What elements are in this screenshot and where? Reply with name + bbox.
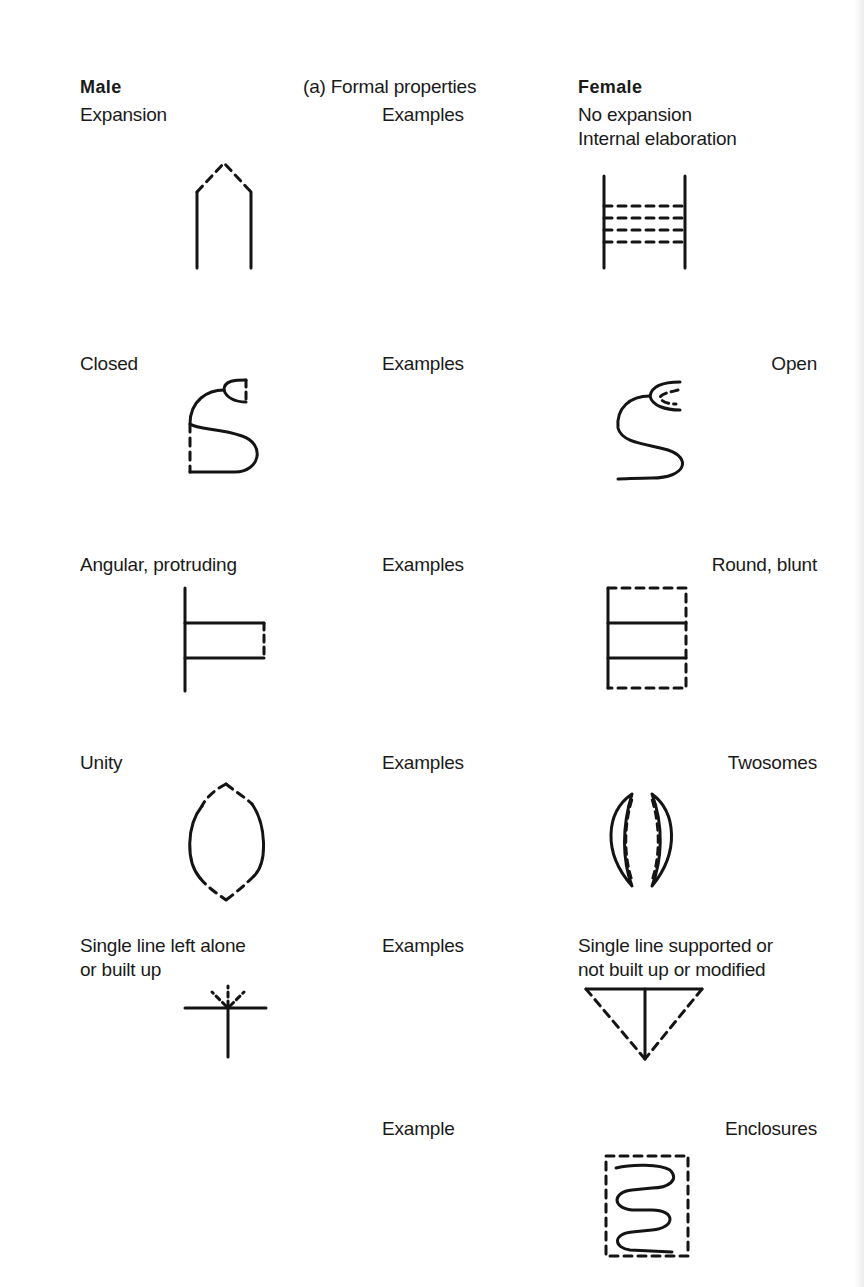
female-label: Twosomes bbox=[728, 752, 817, 774]
male-label: Angular, protruding bbox=[80, 554, 237, 576]
enclosed-rectangle-icon bbox=[604, 584, 694, 694]
protruding-rectangle-icon bbox=[180, 585, 275, 695]
enclosed-serpentine-icon bbox=[602, 1152, 692, 1262]
cross-with-rays-icon bbox=[180, 984, 272, 1064]
pointed-arch-dashed-roof-icon bbox=[190, 158, 260, 273]
examples-label: Examples bbox=[382, 554, 464, 576]
female-label-line-1: Single line supported or bbox=[578, 935, 773, 957]
examples-label: Examples bbox=[382, 752, 464, 774]
female-label: Enclosures bbox=[725, 1118, 817, 1140]
single-oval-icon bbox=[184, 780, 274, 905]
page-edge-shadow bbox=[854, 0, 864, 1287]
male-label: Unity bbox=[80, 752, 122, 774]
paired-crescents-icon bbox=[592, 790, 692, 890]
examples-label: Examples bbox=[382, 353, 464, 375]
female-label-line-2: not built up or modified bbox=[578, 959, 765, 981]
examples-label: Examples bbox=[382, 935, 464, 957]
female-label-line-2: Internal elaboration bbox=[578, 128, 737, 150]
female-label-line-1: No expansion bbox=[578, 104, 692, 126]
supported-triangle-icon bbox=[582, 985, 707, 1065]
male-label: Expansion bbox=[80, 104, 167, 126]
closed-s-curve-icon bbox=[180, 378, 280, 478]
male-label-line-2: or built up bbox=[80, 959, 161, 981]
female-label: Open bbox=[771, 353, 817, 375]
female-label: Round, blunt bbox=[712, 554, 817, 576]
male-label-line-1: Single line left alone bbox=[80, 935, 246, 957]
examples-label: Example bbox=[382, 1118, 455, 1140]
diagram-title: (a) Formal properties bbox=[303, 76, 476, 98]
examples-label: Examples bbox=[382, 104, 464, 126]
open-s-curve-icon bbox=[612, 378, 712, 478]
male-label: Closed bbox=[80, 353, 138, 375]
ladder-dashed-rungs-icon bbox=[598, 170, 693, 275]
male-column-heading: Male bbox=[80, 76, 122, 98]
female-column-heading: Female bbox=[578, 76, 642, 98]
